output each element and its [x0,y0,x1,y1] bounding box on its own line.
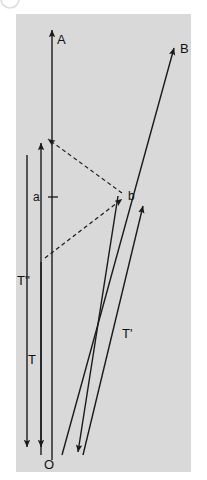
label-T: T [28,352,36,367]
spacetime-diagram: A B a b T'' T T' O [0,0,207,480]
label-T-double-prime: T'' [17,273,30,288]
label-B: B [180,41,189,56]
label-a: a [33,190,40,204]
label-T-prime: T' [122,326,132,341]
label-A: A [57,32,66,47]
label-b: b [128,189,135,203]
figure-root: A B a b T'' T T' O [0,0,207,480]
label-O: O [44,457,54,472]
